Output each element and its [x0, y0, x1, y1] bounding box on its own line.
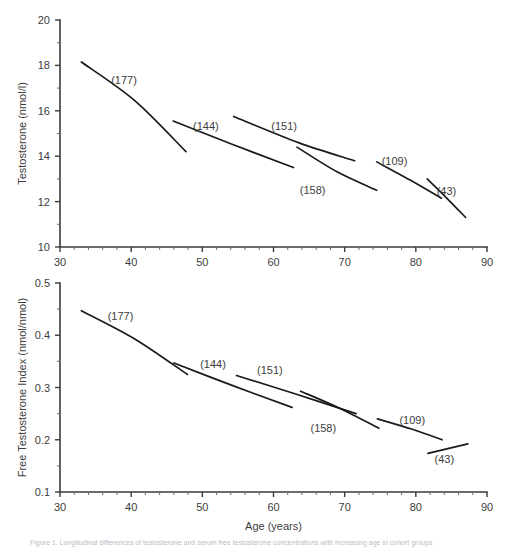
series-label: (177) [111, 74, 137, 86]
series-curve [428, 444, 468, 453]
y-tick-label: 0.4 [35, 329, 50, 341]
figure-caption: Figure 1. Longitudinal differences of te… [30, 538, 497, 547]
x-tick-label: 30 [54, 501, 66, 513]
x-axis: 30405060708090 [54, 492, 493, 513]
x-axis-title: Age (years) [245, 520, 302, 532]
y-axis-title: Free Testosterone Index (nmol/nmol) [16, 298, 28, 478]
y-axis-title: Testosterone (nmol/l) [16, 82, 28, 185]
y-tick-label: 0.2 [35, 434, 50, 446]
x-tick-label: 70 [339, 256, 351, 268]
x-tick-label: 50 [196, 256, 208, 268]
x-axis: 30405060708090 [54, 247, 493, 268]
x-tick-label: 90 [481, 256, 493, 268]
x-tick-label: 40 [125, 501, 137, 513]
series-label: (144) [193, 120, 219, 132]
x-tick-label: 70 [339, 501, 351, 513]
y-tick-label: 14 [38, 150, 50, 162]
series-label: (43) [437, 185, 457, 197]
y-tick-label: 20 [38, 14, 50, 26]
x-tick-label: 50 [196, 501, 208, 513]
x-tick-label: 30 [54, 256, 66, 268]
y-tick-label: 0.5 [35, 277, 50, 289]
x-tick-label: 60 [267, 256, 279, 268]
y-tick-label: 0.1 [35, 486, 50, 498]
x-tick-label: 80 [410, 256, 422, 268]
y-tick-label: 16 [38, 105, 50, 117]
y-axis: 101214161820 [38, 14, 60, 253]
series-label: (158) [300, 184, 326, 196]
series-label: (151) [271, 120, 297, 132]
series-label: (177) [108, 310, 134, 322]
series-curve [81, 311, 187, 375]
y-axis: 0.10.20.30.40.5 [35, 277, 60, 498]
y-tick-label: 12 [38, 196, 50, 208]
x-tick-label: 60 [267, 501, 279, 513]
series-label: (144) [200, 358, 226, 370]
series-curve [377, 162, 442, 198]
y-tick-label: 0.3 [35, 382, 50, 394]
y-tick-label: 18 [38, 59, 50, 71]
series-label: (109) [382, 155, 408, 167]
figure-svg: 101214161820Testosterone (nmol/l)3040506… [0, 0, 505, 548]
series-label: (158) [310, 422, 336, 434]
series-label: (151) [257, 364, 283, 376]
x-tick-label: 40 [125, 256, 137, 268]
series-label: (109) [399, 414, 425, 426]
testosterone-panel: 101214161820Testosterone (nmol/l)3040506… [16, 14, 493, 268]
y-tick-label: 10 [38, 241, 50, 253]
series-label: (43) [435, 453, 455, 465]
x-tick-label: 80 [410, 501, 422, 513]
free-testosterone-panel: 0.10.20.30.40.5Free Testosterone Index (… [16, 277, 493, 532]
figure-container: 101214161820Testosterone (nmol/l)3040506… [0, 0, 505, 548]
x-tick-label: 90 [481, 501, 493, 513]
